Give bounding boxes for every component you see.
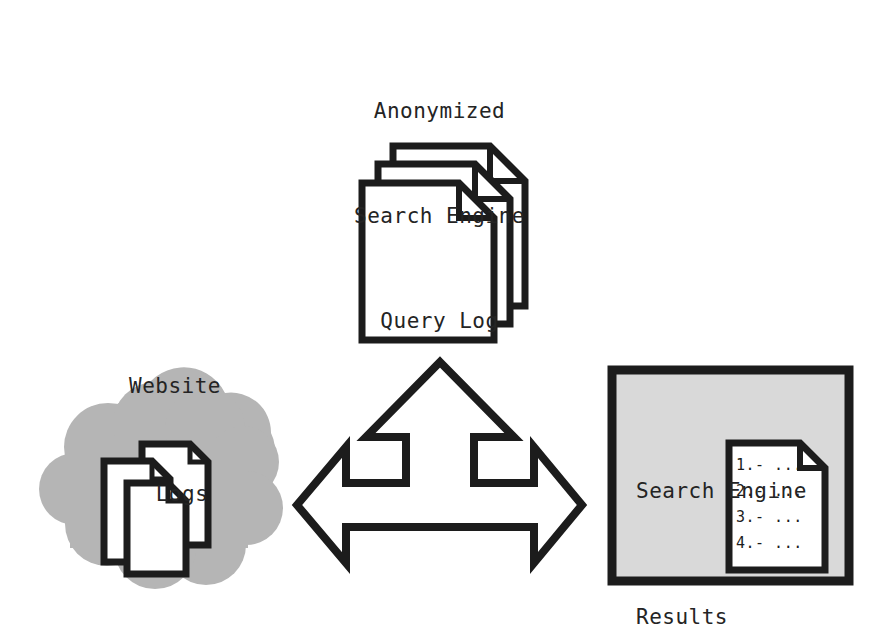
result-list-item: 1.- ... [736, 457, 803, 473]
results-panel-title: Search Engine Results [636, 386, 807, 628]
website-logs-title-line-1: Website [60, 368, 290, 404]
result-list-item: 4.- ... [736, 535, 803, 551]
results-panel-title-line-2: Results [636, 596, 807, 628]
website-logs-title: Website Logs [60, 296, 290, 548]
result-list-item: 3.- ... [736, 509, 803, 525]
query-log-title-line-1: Anonymized [0, 94, 879, 129]
query-log-title-line-2: Search Engine [0, 199, 879, 234]
website-logs-title-line-2: Logs [60, 476, 290, 512]
result-list-item: 2.- ... [736, 483, 803, 499]
three-way-arrow-icon [297, 362, 582, 563]
